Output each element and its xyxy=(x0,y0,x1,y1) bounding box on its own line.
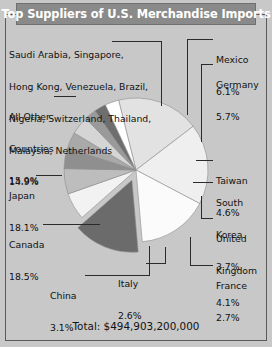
leader-line-canada xyxy=(43,224,100,225)
total-label: Total: $494,903,200,000 xyxy=(73,320,200,332)
callout-china-name: China xyxy=(50,291,77,302)
callout-japan-name: Japan xyxy=(9,191,39,202)
leader-line-germany-h xyxy=(201,64,213,65)
leader-line-taiwan xyxy=(196,160,213,161)
leader-line-france-v xyxy=(190,237,191,266)
callout-canada-name: Canada xyxy=(9,240,44,251)
callout-all-other-line1: All Other xyxy=(9,112,54,123)
chart-page: Top Suppliers of U.S. Merchandise Import… xyxy=(0,0,272,347)
callout-all-other-line2: Countries xyxy=(9,144,54,155)
callout-group-line1: Saudi Arabia, Singapore, xyxy=(9,50,151,61)
leader-line-france-h xyxy=(190,265,213,266)
total-band: Total: $494,903,200,000 xyxy=(6,312,266,340)
chart-title-band: Top Suppliers of U.S. Merchandise Import… xyxy=(16,3,256,25)
leader-line-mexico-h xyxy=(187,39,213,40)
leader-line-germany-v xyxy=(201,64,202,142)
callout-south-korea-line1: South xyxy=(216,198,243,209)
callout-germany-pct: 5.7% xyxy=(216,112,259,123)
callout-italy-name: Italy xyxy=(118,279,142,290)
callout-france-name: France xyxy=(216,281,247,292)
leader-line-mexico-v xyxy=(187,39,188,115)
leader-line-italy-h xyxy=(146,263,166,264)
callout-germany-name: Germany xyxy=(216,80,259,91)
callout-canada-pct: 18.5% xyxy=(9,272,44,283)
leader-line-group-v xyxy=(161,41,162,106)
leader-line-china-v xyxy=(149,246,150,276)
callout-canada: Canada 18.5% xyxy=(9,219,44,304)
callout-uk-line1: United xyxy=(216,234,257,245)
leader-line-italy-v xyxy=(165,247,166,264)
leader-line-uk-v xyxy=(201,196,202,219)
leader-line-uk-h xyxy=(201,218,213,219)
page-title: Top Suppliers of U.S. Merchandise Import… xyxy=(1,7,270,21)
callout-germany: Germany 5.7% xyxy=(216,59,259,144)
leader-line-korea xyxy=(193,182,213,183)
